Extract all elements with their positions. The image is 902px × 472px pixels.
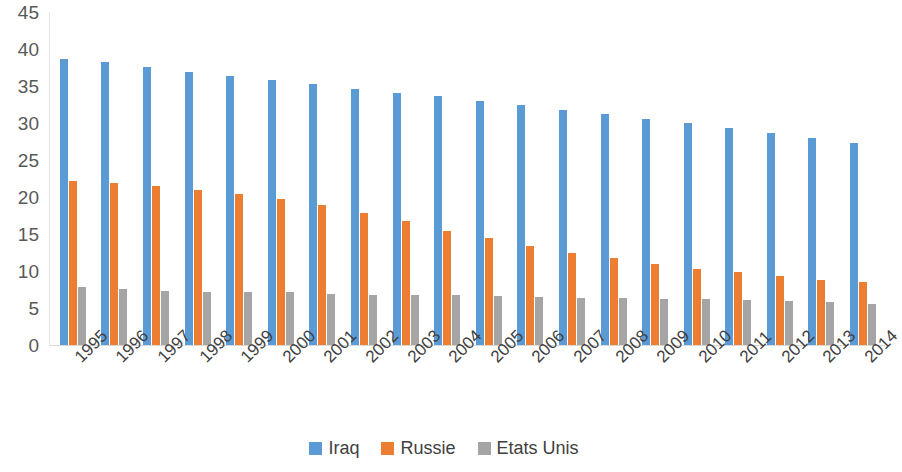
x-axis-cell: 1995 bbox=[52, 347, 94, 427]
y-axis-tick-label: 5 bbox=[1, 299, 39, 318]
y-axis-tick-label: 40 bbox=[1, 40, 39, 59]
bar-etats-unis bbox=[161, 291, 169, 345]
bar-iraq bbox=[393, 93, 401, 345]
legend-swatch-icon bbox=[309, 442, 322, 455]
bar-group bbox=[718, 12, 760, 345]
bar-iraq bbox=[185, 72, 193, 345]
bar-russie bbox=[526, 246, 534, 345]
bar-iraq bbox=[808, 138, 816, 345]
bar-group bbox=[343, 12, 385, 345]
bar-russie bbox=[110, 183, 118, 345]
bar-group bbox=[510, 12, 552, 345]
bar-group bbox=[468, 12, 510, 345]
bar-russie bbox=[360, 213, 368, 345]
x-axis-cell: 2004 bbox=[426, 347, 468, 427]
y-axis-tick-label: 45 bbox=[1, 3, 39, 22]
bar-etats-unis bbox=[119, 289, 127, 345]
bar-russie bbox=[776, 276, 784, 345]
bar-iraq bbox=[60, 59, 68, 345]
bar-iraq bbox=[309, 84, 317, 345]
bar-group bbox=[260, 12, 302, 345]
x-axis-cell: 2013 bbox=[801, 347, 843, 427]
bar-group bbox=[801, 12, 843, 345]
bar-group bbox=[759, 12, 801, 345]
x-axis-cell: 2000 bbox=[260, 347, 302, 427]
bar-iraq bbox=[850, 143, 858, 345]
legend-label: Iraq bbox=[328, 438, 359, 459]
bar-russie bbox=[152, 186, 160, 345]
x-axis-cell: 2005 bbox=[468, 347, 510, 427]
bar-etats-unis bbox=[78, 287, 86, 345]
chart-legend: IraqRussieEtats Unis bbox=[0, 438, 888, 459]
bar-iraq bbox=[684, 123, 692, 345]
bar-iraq bbox=[642, 119, 650, 345]
bar-group bbox=[551, 12, 593, 345]
bar-russie bbox=[485, 238, 493, 345]
legend-label: Russie bbox=[400, 438, 455, 459]
bar-russie bbox=[651, 264, 659, 345]
y-axis-tick-label: 35 bbox=[1, 77, 39, 96]
x-axis-cell: 2014 bbox=[842, 347, 884, 427]
bar-russie bbox=[194, 190, 202, 345]
bar-group bbox=[385, 12, 427, 345]
bar-group bbox=[842, 12, 884, 345]
bar-iraq bbox=[101, 62, 109, 345]
x-axis-cell: 2011 bbox=[718, 347, 760, 427]
y-axis-tick-label: 10 bbox=[1, 262, 39, 281]
bar-iraq bbox=[226, 76, 234, 345]
y-axis-tick-label: 25 bbox=[1, 151, 39, 170]
x-axis-cell: 2001 bbox=[302, 347, 344, 427]
y-axis: 051015202530354045 bbox=[0, 0, 48, 357]
bar-russie bbox=[277, 199, 285, 345]
bar-iraq bbox=[268, 80, 276, 345]
bar-russie bbox=[568, 253, 576, 345]
x-axis-cell: 2003 bbox=[385, 347, 427, 427]
bar-iraq bbox=[767, 133, 775, 345]
bar-iraq bbox=[351, 89, 359, 345]
x-axis-cell: 2008 bbox=[593, 347, 635, 427]
bar-groups bbox=[52, 12, 884, 345]
bar-group bbox=[52, 12, 94, 345]
bar-russie bbox=[610, 258, 618, 345]
bar-group bbox=[676, 12, 718, 345]
bar-etats-unis bbox=[203, 292, 211, 345]
bar-group bbox=[634, 12, 676, 345]
x-axis-cell: 1997 bbox=[135, 347, 177, 427]
x-axis-cell: 2002 bbox=[343, 347, 385, 427]
y-axis-tick-label: 20 bbox=[1, 188, 39, 207]
legend-swatch-icon bbox=[381, 442, 394, 455]
x-axis-cell: 1998 bbox=[177, 347, 219, 427]
legend-item-etats-unis[interactable]: Etats Unis bbox=[478, 438, 579, 459]
bar-iraq bbox=[725, 128, 733, 345]
x-axis-cell: 2009 bbox=[634, 347, 676, 427]
y-axis-tick-label: 0 bbox=[1, 336, 39, 355]
bar-russie bbox=[69, 181, 77, 345]
bar-etats-unis bbox=[411, 295, 419, 345]
x-axis-cell: 2010 bbox=[676, 347, 718, 427]
legend-label: Etats Unis bbox=[497, 438, 579, 459]
bar-group bbox=[426, 12, 468, 345]
y-axis-line bbox=[49, 12, 50, 346]
bar-etats-unis bbox=[286, 292, 294, 345]
bar-group bbox=[135, 12, 177, 345]
bar-group bbox=[218, 12, 260, 345]
bar-russie bbox=[693, 269, 701, 345]
x-axis-cell: 2012 bbox=[759, 347, 801, 427]
bar-russie bbox=[235, 194, 243, 345]
bar-iraq bbox=[476, 101, 484, 345]
bar-group bbox=[177, 12, 219, 345]
y-axis-tick-label: 30 bbox=[1, 114, 39, 133]
x-axis-cell: 2006 bbox=[510, 347, 552, 427]
bar-group bbox=[593, 12, 635, 345]
bar-russie bbox=[443, 231, 451, 345]
bar-iraq bbox=[559, 110, 567, 345]
y-axis-tick-label: 15 bbox=[1, 225, 39, 244]
x-axis-cell: 1999 bbox=[218, 347, 260, 427]
bar-iraq bbox=[517, 105, 525, 345]
bar-russie bbox=[402, 221, 410, 345]
legend-item-iraq[interactable]: Iraq bbox=[309, 438, 359, 459]
bar-group bbox=[94, 12, 136, 345]
legend-item-russie[interactable]: Russie bbox=[381, 438, 455, 459]
legend-swatch-icon bbox=[478, 442, 491, 455]
